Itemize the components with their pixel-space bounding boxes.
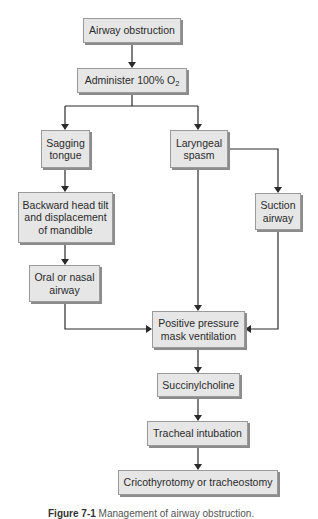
- node-label: Sagging tongue: [46, 137, 85, 162]
- node-positive-pressure-ventilation: Positive pressure mask ventilation: [152, 311, 245, 348]
- node-label: Cricothyrotomy or tracheostomy: [124, 476, 273, 489]
- node-head-tilt: Backward head tilt and displacement of m…: [18, 192, 113, 243]
- node-tracheal-intubation: Tracheal intubation: [147, 421, 248, 446]
- node-succinylcholine: Succinylcholine: [157, 373, 240, 397]
- node-oral-nasal-airway: Oral or nasal airway: [29, 265, 100, 302]
- node-suction-airway: Suction airway: [255, 193, 301, 230]
- node-label: Backward head tilt and displacement of m…: [23, 199, 109, 237]
- node-administer-oxygen: Administer 100% O2: [77, 68, 187, 93]
- node-sagging-tongue: Sagging tongue: [41, 130, 90, 168]
- node-label: Succinylcholine: [162, 379, 234, 392]
- node-cricothyrotomy: Cricothyrotomy or tracheostomy: [118, 470, 278, 495]
- node-airway-obstruction: Airway obstruction: [83, 18, 181, 43]
- figure-caption: Figure 7-1 Management of airway obstruct…: [48, 508, 254, 519]
- node-label: Airway obstruction: [89, 24, 175, 37]
- node-label: Tracheal intubation: [153, 427, 242, 440]
- node-label: Suction airway: [260, 199, 295, 224]
- node-label: Administer 100% O2: [85, 74, 180, 87]
- node-label: Positive pressure mask ventilation: [158, 317, 239, 342]
- caption-text: Management of airway obstruction.: [99, 508, 255, 519]
- figure-number: Figure 7-1: [48, 508, 96, 519]
- node-label: Laryngeal spasm: [176, 137, 222, 162]
- node-laryngeal-spasm: Laryngeal spasm: [170, 130, 228, 168]
- node-label: Oral or nasal airway: [34, 271, 94, 296]
